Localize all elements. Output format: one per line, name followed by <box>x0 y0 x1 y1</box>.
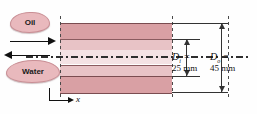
extension-line-inner-bottom <box>172 76 200 77</box>
outer-diameter-value: 45 mm <box>210 64 235 73</box>
outer-diameter-equals: = <box>223 51 230 62</box>
extension-line-outer-bottom <box>172 92 228 93</box>
water-flow-arrow-line <box>12 55 50 56</box>
axis-x-label: x <box>76 94 80 104</box>
axis-x-arrow-head <box>68 97 74 103</box>
section-line-left <box>60 16 61 100</box>
oil-label-text: Oil <box>25 18 36 27</box>
inner-diameter-arrow-head-top <box>184 39 190 45</box>
outer-diameter-arrow-head-bottom <box>219 86 225 92</box>
oil-flow-arrow-head-right <box>48 37 56 45</box>
water-label-blob: Water <box>6 60 60 83</box>
oil-label-blob: Oil <box>10 12 50 33</box>
axis-x-line <box>49 100 69 101</box>
water-label-text: Water <box>22 67 44 76</box>
outer-wall-bottom-band <box>60 76 172 94</box>
inner-diameter-value: 25 mm <box>172 64 197 73</box>
oil-flow-arrow-line <box>10 41 48 42</box>
water-flow-arrow-head-left <box>4 51 12 59</box>
inner-diameter-equals: = <box>183 51 190 62</box>
inner-diameter-label: Di = 25 mm <box>172 52 197 74</box>
outer-diameter-arrow-head-top <box>219 23 225 29</box>
outer-diameter-label: Do = 45 mm <box>210 52 235 74</box>
pipe-cross-section-diagram: Oil Water x Di = 25 mm Do = 45 mm <box>0 0 257 114</box>
outer-wall-top-band <box>60 23 172 40</box>
